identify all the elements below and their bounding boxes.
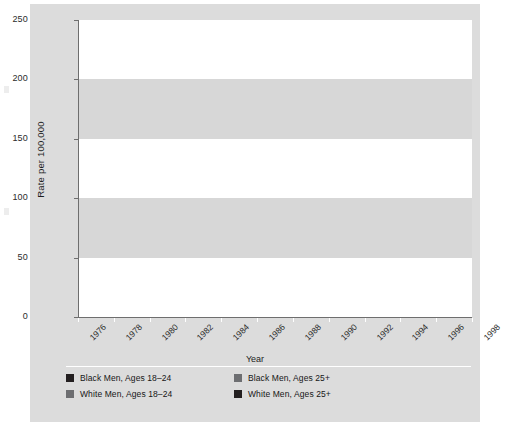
band-200-250 xyxy=(78,20,472,79)
legend-label: Black Men, Ages 18–24 xyxy=(80,373,171,383)
x-tick-label: 1984 xyxy=(231,322,251,342)
y-tick-mark xyxy=(74,258,78,259)
x-tick-mark xyxy=(472,318,473,322)
x-tick-label: 1994 xyxy=(410,322,430,342)
y-tick-label: 100 xyxy=(0,192,28,202)
x-tick-mark xyxy=(257,318,258,322)
plot-area xyxy=(78,20,472,317)
x-tick-mark xyxy=(365,318,366,322)
legend-label: White Men, Ages 25+ xyxy=(248,389,331,399)
y-tick-mark xyxy=(74,139,78,140)
x-tick-mark xyxy=(293,318,294,322)
legend-item[interactable]: White Men, Ages 18–24 xyxy=(66,387,216,401)
y-tick-mark xyxy=(74,20,78,21)
legend-label: Black Men, Ages 25+ xyxy=(248,373,330,383)
x-tick-label: 1996 xyxy=(446,322,466,342)
chart-legend: Black Men, Ages 18–24Black Men, Ages 25+… xyxy=(66,371,396,401)
legend-label: White Men, Ages 18–24 xyxy=(80,389,172,399)
legend-item[interactable]: Black Men, Ages 25+ xyxy=(234,371,384,385)
x-tick-label: 1990 xyxy=(338,322,358,342)
x-tick-mark xyxy=(78,318,79,322)
legend-item[interactable]: Black Men, Ages 18–24 xyxy=(66,371,216,385)
x-tick-label: 1978 xyxy=(123,322,143,342)
x-tick-label: 1988 xyxy=(302,322,322,342)
y-tick-label: 200 xyxy=(0,73,28,83)
y-tick-label: 50 xyxy=(0,252,28,262)
x-tick-mark xyxy=(436,318,437,322)
y-tick-mark xyxy=(74,198,78,199)
y-tick-label: 0 xyxy=(0,311,28,321)
band-100-150 xyxy=(78,139,472,198)
x-tick-mark xyxy=(329,318,330,322)
x-axis-line xyxy=(78,317,472,318)
scan-artifact-top xyxy=(4,86,9,93)
x-tick-mark xyxy=(150,318,151,322)
x-tick-label: 1998 xyxy=(482,322,502,342)
scan-artifact-bottom xyxy=(4,208,9,215)
legend-swatch-icon xyxy=(66,390,74,398)
band-0-50 xyxy=(78,258,472,317)
x-tick-label: 1986 xyxy=(267,322,287,342)
legend-separator xyxy=(66,366,471,367)
x-tick-label: 1992 xyxy=(374,322,394,342)
x-tick-label: 1982 xyxy=(195,322,215,342)
x-tick-mark xyxy=(400,318,401,322)
x-tick-mark xyxy=(221,318,222,322)
chart-figure: 050100150200250 Rate per 100,000 1976197… xyxy=(30,4,480,422)
legend-swatch-icon xyxy=(234,374,242,382)
x-tick-mark xyxy=(114,318,115,322)
x-axis-label: Year xyxy=(30,354,480,364)
x-tick-label: 1980 xyxy=(159,322,179,342)
y-axis-line xyxy=(78,20,79,317)
legend-item[interactable]: White Men, Ages 25+ xyxy=(234,387,384,401)
y-tick-label: 150 xyxy=(0,133,28,143)
legend-swatch-icon xyxy=(234,390,242,398)
y-axis-label: Rate per 100,000 xyxy=(35,60,46,260)
legend-swatch-icon xyxy=(66,374,74,382)
x-tick-mark xyxy=(185,318,186,322)
y-tick-label: 250 xyxy=(0,14,28,24)
x-tick-label: 1976 xyxy=(88,322,108,342)
y-tick-mark xyxy=(74,79,78,80)
